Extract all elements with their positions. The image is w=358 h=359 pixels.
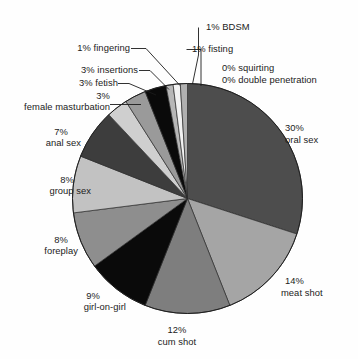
- pie-chart-canvas: [0, 0, 358, 359]
- label-meat-shot-percent: 14%: [285, 275, 304, 286]
- label-double-penetration: 0% double penetration: [222, 74, 317, 85]
- pie-slices-group: [73, 84, 303, 314]
- label-oral-sex-name: oral sex: [285, 134, 318, 145]
- label-squirting: 0% squirting: [222, 62, 274, 73]
- label-fetish: 3% fetish: [79, 77, 118, 88]
- label-female-masturbation-name: female masturbation: [24, 101, 110, 112]
- label-girl-on-girl-name: girl-on-girl: [84, 301, 126, 312]
- leader-line-fingering: [131, 49, 180, 86]
- label-cum-shot-name: cum shot: [147, 336, 207, 347]
- label-meat-shot-name: meat shot: [281, 287, 323, 298]
- label-foreplay-percent: 8%: [54, 234, 68, 245]
- label-group-sex-percent: 8%: [60, 174, 74, 185]
- label-bdsm: 1% BDSM: [206, 21, 250, 32]
- label-insertions: 3% insertions: [81, 64, 138, 75]
- label-foreplay-name: foreplay: [44, 245, 78, 256]
- label-anal-sex-name: anal sex: [46, 137, 81, 148]
- label-female-masturbation-percent: 3%: [96, 90, 110, 101]
- label-girl-on-girl-percent: 9%: [86, 290, 100, 301]
- pie-chart-figure: 1% BDSM 1% fisting 1% fingering 3% inser…: [0, 0, 358, 359]
- label-cum-shot-percent: 12%: [152, 324, 202, 335]
- label-anal-sex-percent: 7%: [54, 126, 68, 137]
- label-fingering: 1% fingering: [77, 42, 130, 53]
- label-oral-sex-percent: 30%: [285, 122, 304, 133]
- label-group-sex-name: group sex: [49, 185, 91, 196]
- leader-line-bdsm: [193, 28, 199, 85]
- label-fisting: 1% fisting: [192, 43, 233, 54]
